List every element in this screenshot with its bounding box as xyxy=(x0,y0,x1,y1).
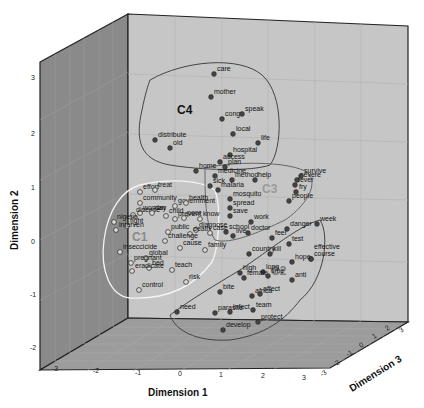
point-label: team xyxy=(256,301,272,308)
point-label: kill xyxy=(273,245,282,252)
cluster-label-c4: C4 xyxy=(177,103,193,117)
x-tick: -1 xyxy=(135,369,141,376)
point-label: hope xyxy=(295,253,311,261)
point-label: day xyxy=(155,204,167,212)
point-label: death xyxy=(193,225,211,232)
x-tick: 0 xyxy=(178,370,182,377)
point-label: risk xyxy=(189,273,200,280)
point-label: community xyxy=(143,194,177,202)
data-point xyxy=(251,308,256,313)
data-point xyxy=(178,246,183,251)
x-tick: 1 xyxy=(219,371,223,378)
point-label: teach xyxy=(175,261,192,268)
point-label: bite xyxy=(223,283,234,290)
data-point xyxy=(203,248,208,253)
point-label: need xyxy=(180,303,196,310)
point-label: poor xyxy=(187,209,202,217)
point-label: speak xyxy=(245,105,264,113)
point-label: treat xyxy=(158,181,172,188)
data-point xyxy=(293,183,298,188)
point-label: course xyxy=(314,250,335,257)
point-label: live xyxy=(236,227,247,234)
y-axis-title: Dimension 2 xyxy=(9,190,20,250)
point-label: life xyxy=(261,134,270,141)
data-point xyxy=(218,290,223,295)
point-label: develop xyxy=(226,321,251,329)
point-label: distribute xyxy=(158,131,187,138)
data-point xyxy=(118,250,123,255)
data-point xyxy=(268,252,273,257)
data-point xyxy=(208,184,213,189)
data-point xyxy=(153,138,158,143)
point-label: week xyxy=(319,215,337,222)
point-label: interven xyxy=(119,221,144,228)
data-point xyxy=(287,242,292,247)
data-point xyxy=(240,112,245,117)
point-label: method xyxy=(235,171,258,178)
point-label: parasite xyxy=(218,304,243,312)
data-point xyxy=(137,288,142,293)
point-label: know xyxy=(203,210,220,217)
data-point xyxy=(168,146,173,151)
x-tick: -2 xyxy=(93,367,99,374)
3d-scatter-chart: C4 C1 C3 C2 caremothercongospeaklocaldis… xyxy=(0,0,424,408)
y-axis-ticks: 3 2 1 0 -1 -2 xyxy=(30,74,36,351)
data-point xyxy=(213,311,218,316)
data-point xyxy=(209,95,214,100)
data-point xyxy=(247,252,252,257)
point-label: plan xyxy=(228,158,241,166)
point-label: affect xyxy=(263,285,280,292)
cluster-label-c3: C3 xyxy=(262,182,278,196)
y-tick: 2 xyxy=(31,130,35,137)
point-label: fry xyxy=(299,183,307,191)
data-point xyxy=(212,72,217,77)
data-point xyxy=(163,239,168,244)
point-label: effective xyxy=(314,243,340,250)
data-point xyxy=(238,271,243,276)
point-label: mosquito xyxy=(233,190,262,198)
point-label: survive xyxy=(304,167,326,174)
data-point xyxy=(150,211,155,216)
point-label: work xyxy=(253,213,269,220)
data-point xyxy=(228,206,233,211)
point-label: female xyxy=(247,269,268,276)
data-point xyxy=(182,216,187,221)
point-label: care xyxy=(217,65,231,72)
data-point xyxy=(270,236,275,241)
point-label: public xyxy=(171,223,190,231)
point-label: eradicate xyxy=(135,262,164,269)
point-label: help xyxy=(258,171,271,179)
x-tick: -3 xyxy=(52,365,58,372)
point-label: protect xyxy=(261,313,282,321)
data-point xyxy=(246,231,251,236)
y-tick: 3 xyxy=(31,74,35,81)
data-point xyxy=(175,310,180,315)
data-point xyxy=(266,274,271,279)
point-label: cause xyxy=(183,239,202,246)
data-point xyxy=(173,217,178,222)
z-tick: 3 xyxy=(398,326,405,334)
point-label: danger xyxy=(290,220,312,228)
data-point xyxy=(231,132,236,137)
data-point xyxy=(315,222,320,227)
data-point xyxy=(129,261,134,266)
point-label: time xyxy=(271,267,284,274)
point-label: doctor xyxy=(251,224,271,231)
data-point xyxy=(208,231,213,236)
point-label: fever xyxy=(298,176,314,183)
data-point xyxy=(216,188,221,193)
data-point xyxy=(164,214,169,219)
data-point xyxy=(221,328,226,333)
data-point xyxy=(138,190,143,195)
data-point xyxy=(258,292,263,297)
x-tick: 2 xyxy=(261,372,265,379)
data-point xyxy=(287,199,292,204)
data-point xyxy=(228,214,233,219)
data-point xyxy=(228,197,233,202)
data-point xyxy=(220,117,225,122)
data-point xyxy=(194,169,199,174)
z-tick: -3 xyxy=(319,368,328,377)
data-point xyxy=(153,188,158,193)
point-label: country xyxy=(252,245,275,253)
point-label: people xyxy=(292,192,313,200)
